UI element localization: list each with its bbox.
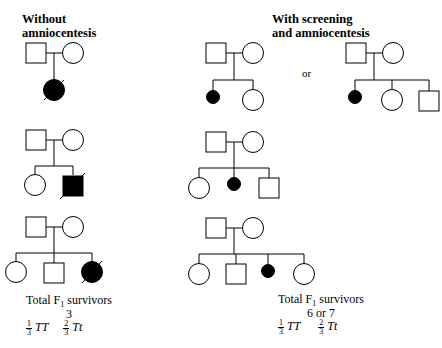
left-summary-genotypes: 13 TT 23 Tt: [26, 320, 82, 337]
denominator: 3: [26, 329, 32, 337]
genotype: Tt: [72, 320, 82, 334]
denominator: 3: [63, 329, 69, 337]
genotype: TT: [35, 320, 48, 334]
pedigree-left-2: [25, 130, 86, 200]
fraction: 23: [318, 319, 324, 336]
pedigree-right-2: [189, 132, 280, 199]
right-summary-genotypes: 13 TT 23 Tt: [278, 319, 337, 336]
or-label: or: [302, 66, 311, 80]
summary-title-rest: survivors: [64, 293, 112, 307]
male-parent: [26, 43, 46, 63]
denominator: 3: [318, 328, 324, 336]
denominator: 3: [278, 328, 284, 336]
pedigree-left-1: [26, 43, 84, 101]
summary-title-rest: survivors: [316, 292, 364, 306]
pedigree-right-1b: [346, 43, 439, 112]
affected-female-screened: [207, 91, 220, 104]
genotype: Tt: [327, 319, 337, 333]
pedigree-right-3: [189, 218, 315, 285]
genotype: TT: [287, 319, 300, 333]
fraction: 13: [278, 319, 284, 336]
female-parent: [63, 43, 84, 64]
summary-title-text: Total F: [26, 293, 60, 307]
pedigree-left-3: [6, 217, 103, 284]
pedigree-right-1a: [206, 43, 264, 111]
summary-title-text: Total F: [278, 292, 312, 306]
fraction: 13: [26, 320, 32, 337]
fraction: 23: [63, 320, 69, 337]
